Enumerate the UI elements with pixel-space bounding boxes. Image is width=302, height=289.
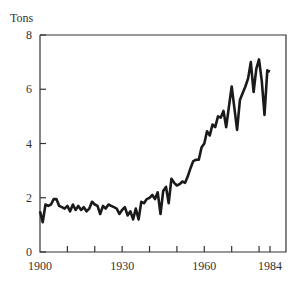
- x-tick-label: 1900: [28, 259, 52, 273]
- y-axis: 02468: [26, 28, 46, 259]
- y-tick-label: 0: [26, 245, 32, 259]
- y-tick-label: 8: [26, 28, 32, 42]
- x-axis: 1900193019601984: [28, 246, 282, 273]
- y-tick-label: 6: [26, 82, 32, 96]
- y-tick-label: 2: [26, 191, 32, 205]
- x-tick-label: 1984: [258, 259, 282, 273]
- x-tick-label: 1930: [110, 259, 134, 273]
- y-axis-title: Tons: [10, 11, 33, 25]
- line-chart: Tons 02468 1900193019601984: [0, 0, 302, 289]
- y-tick-label: 4: [26, 137, 32, 151]
- data-line: [40, 59, 270, 222]
- x-tick-label: 1960: [192, 259, 216, 273]
